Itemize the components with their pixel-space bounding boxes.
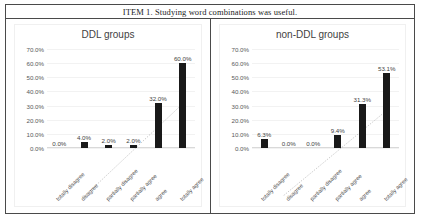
bar-value-label: 6.3% [257, 131, 271, 138]
bar[interactable] [383, 73, 390, 148]
table-cell-non-ddl: non-DDL groups 6.3%0.0%0.0%9.4%31.3%53.1… [211, 19, 414, 213]
bar-slot: 0.0% [277, 49, 302, 148]
table-cell-ddl: DDL groups 0.0%4.0%2.0%2.0%32.0%60.0% 70… [6, 19, 211, 213]
y-axis-tick-label: 20.0% [26, 116, 44, 123]
y-axis-tick-label: 40.0% [231, 88, 249, 95]
chart-title: DDL groups [15, 29, 201, 40]
bar-value-label: 31.3% [353, 96, 371, 103]
bar-value-label: 9.4% [331, 127, 345, 134]
bar-value-label: 32.0% [149, 95, 167, 102]
category-axis: totally disagreedisagreepartially disagr… [47, 148, 195, 202]
bar[interactable] [179, 63, 186, 148]
x-axis-tick-label: disagree [285, 183, 304, 202]
y-axis-tick-label: 50.0% [231, 74, 249, 81]
y-axis-tick-label: 60.0% [231, 60, 249, 67]
y-axis-tick-label: 0.0% [235, 145, 249, 152]
bar-slot: 9.4% [326, 49, 351, 148]
x-axis-tick-label: agree [358, 188, 372, 202]
bar-slot: 6.3% [252, 49, 277, 148]
bar-value-label: 2.0% [126, 137, 140, 144]
bar-series: 0.0%4.0%2.0%2.0%32.0%60.0% [47, 49, 195, 148]
chart-title: non-DDL groups [220, 29, 405, 40]
bar-slot: 4.0% [72, 49, 97, 148]
table-header-row: ITEM 1. Studying word combinations was u… [6, 5, 414, 19]
y-axis-tick-label: 10.0% [231, 130, 249, 137]
y-axis-tick-label: 30.0% [26, 102, 44, 109]
bar-slot: 2.0% [96, 49, 121, 148]
bar-value-label: 53.1% [378, 65, 396, 72]
x-axis-tick-label: totally agree [383, 176, 409, 202]
bar-slot: 60.0% [170, 49, 195, 148]
bar-slot: 53.1% [375, 49, 400, 148]
x-axis-tick-label: totally agree [178, 176, 204, 202]
x-axis-tick-label: agree [154, 188, 168, 202]
y-axis-tick-label: 40.0% [26, 88, 44, 95]
bar-value-label: 0.0% [52, 140, 66, 147]
bar-series: 6.3%0.0%0.0%9.4%31.3%53.1% [252, 49, 399, 148]
plot-area: 6.3%0.0%0.0%9.4%31.3%53.1% 70.0%60.0%50.… [252, 49, 399, 148]
y-axis-tick-label: 20.0% [231, 116, 249, 123]
plot-area: 0.0%4.0%2.0%2.0%32.0%60.0% 70.0%60.0%50.… [47, 49, 195, 148]
y-axis-tick-label: 0.0% [30, 145, 44, 152]
bar[interactable] [261, 139, 268, 148]
bar-slot: 31.3% [350, 49, 375, 148]
bar[interactable] [359, 104, 366, 148]
y-axis-tick-label: 10.0% [26, 130, 44, 137]
bar-slot: 2.0% [121, 49, 146, 148]
bar-value-label: 0.0% [282, 140, 296, 147]
chart-non-ddl-groups: non-DDL groups 6.3%0.0%0.0%9.4%31.3%53.1… [219, 24, 406, 207]
chart-ddl-groups: DDL groups 0.0%4.0%2.0%2.0%32.0%60.0% 70… [14, 24, 202, 207]
y-axis-tick-label: 70.0% [231, 46, 249, 53]
y-axis-tick-label: 60.0% [26, 60, 44, 67]
y-axis-tick-label: 30.0% [231, 102, 249, 109]
item-table: ITEM 1. Studying word combinations was u… [5, 4, 415, 214]
bar-value-label: 2.0% [102, 137, 116, 144]
bar-value-label: 4.0% [77, 134, 91, 141]
category-axis: totally disagreedisagreepartially disagr… [252, 148, 399, 202]
y-axis-tick-label: 50.0% [26, 74, 44, 81]
bar-slot: 0.0% [301, 49, 326, 148]
bar[interactable] [334, 135, 341, 148]
bar[interactable] [155, 103, 162, 148]
bar-slot: 32.0% [146, 49, 171, 148]
page-title: ITEM 1. Studying word combinations was u… [123, 7, 298, 17]
bar-value-label: 0.0% [306, 140, 320, 147]
x-axis-tick-label: disagree [80, 183, 99, 202]
bar-value-label: 60.0% [174, 55, 192, 62]
bar-slot: 0.0% [47, 49, 72, 148]
table-body-row: DDL groups 0.0%4.0%2.0%2.0%32.0%60.0% 70… [6, 19, 414, 213]
y-axis-tick-label: 70.0% [26, 46, 44, 53]
